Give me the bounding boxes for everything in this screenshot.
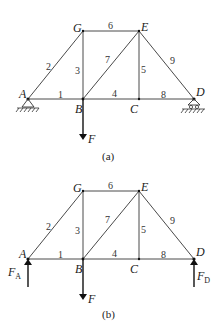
member-label-6: 6 — [108, 20, 113, 31]
member-label-3: 3 — [75, 225, 80, 236]
node-label-e: E — [140, 180, 149, 194]
reaction-label-fa: FA — [7, 265, 21, 281]
member-9 — [139, 191, 194, 259]
joint-c — [138, 98, 140, 100]
member-9 — [139, 31, 194, 99]
node-label-e: E — [140, 20, 149, 34]
reaction-label-fd: FD — [196, 269, 210, 285]
member-label-7: 7 — [105, 54, 110, 65]
member-label-9: 9 — [170, 55, 175, 66]
member-label-9: 9 — [170, 215, 175, 226]
joint-a — [26, 257, 29, 260]
node-label-a: A — [18, 247, 27, 261]
roller-support-icon — [181, 99, 205, 113]
member-label-7: 7 — [105, 214, 110, 225]
joint-e — [138, 30, 140, 32]
load-label: F — [87, 292, 96, 306]
member-label-1: 1 — [58, 89, 63, 100]
node-label-g: G — [73, 181, 82, 195]
node-label-c: C — [130, 262, 139, 276]
member-label-8: 8 — [161, 249, 166, 260]
joint-e — [138, 190, 140, 192]
member-label-2: 2 — [46, 221, 51, 232]
member-label-3: 3 — [75, 65, 80, 76]
node-label-g: G — [73, 21, 82, 35]
joint-c — [138, 258, 140, 260]
member-label-1: 1 — [58, 249, 63, 260]
member-label-5: 5 — [141, 224, 146, 235]
node-label-b: B — [75, 262, 83, 276]
node-label-d: D — [195, 245, 205, 259]
member-label-6: 6 — [108, 180, 113, 191]
truss-figure: F A G E B C D 1 2 3 4 5 6 7 8 9 (a) — [0, 0, 221, 323]
member-7 — [83, 31, 139, 99]
load-label: F — [87, 132, 96, 146]
node-label-d: D — [195, 85, 205, 99]
member-7 — [83, 191, 139, 259]
node-label-a: A — [18, 87, 27, 101]
truss-diagram-a: F A G E B C D 1 2 3 4 5 6 7 8 9 (a) — [16, 20, 205, 163]
caption-b: (b) — [102, 308, 115, 321]
caption-a: (a) — [102, 150, 115, 163]
member-label-4: 4 — [112, 248, 117, 259]
node-label-c: C — [130, 102, 139, 116]
member-label-4: 4 — [112, 88, 117, 99]
joint-g — [82, 30, 84, 32]
joint-g — [82, 190, 84, 192]
member-label-2: 2 — [46, 61, 51, 72]
member-label-8: 8 — [161, 89, 166, 100]
truss-diagram-b: FA FD F A G E B C D 1 2 3 4 5 6 7 8 9 (b… — [7, 180, 210, 321]
member-label-5: 5 — [141, 64, 146, 75]
node-label-b: B — [75, 102, 83, 116]
